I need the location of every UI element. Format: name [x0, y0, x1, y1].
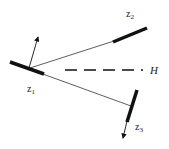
element-z2: [113, 28, 147, 42]
element-z3: [127, 90, 137, 122]
label-z2: z2: [126, 8, 134, 21]
element-z1: [10, 62, 44, 74]
link-z1-z3: [40, 73, 131, 106]
label-z3: z3: [135, 121, 143, 134]
normal-arrow-z3: [123, 121, 127, 138]
label-h: H: [149, 64, 159, 76]
label-z1: z1: [27, 83, 35, 96]
normal-arrow-z1: [29, 37, 38, 68]
diagram-canvas: z1 z2 z3 H: [0, 0, 169, 149]
link-z1-z2: [30, 41, 114, 68]
